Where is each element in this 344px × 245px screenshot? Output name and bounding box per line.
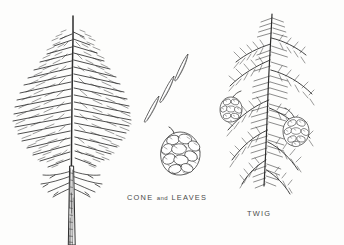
illustration-plate: CONE and LEAVES TWIG [0,0,344,245]
caption-cone-word: CONE [127,193,153,202]
caption-twig: TWIG [247,209,271,218]
caption-connector-word: and [157,195,169,201]
seed-cone [159,127,201,175]
twig-cone-right [283,108,310,147]
caption-leaves-word: LEAVES [172,193,208,202]
tree-crown [13,16,131,168]
detached-needles [143,54,190,123]
figure-twig [206,8,344,204]
tree-trunk [68,166,75,245]
twig-cone-left [219,91,242,122]
caption-cone-and-leaves: CONE and LEAVES [127,193,207,202]
figure-whole-tree [0,8,150,245]
